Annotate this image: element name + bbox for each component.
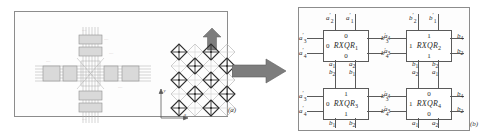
- gate2-top-value: 1: [407, 32, 451, 40]
- gate3-top-port-2: b1: [349, 68, 355, 77]
- gate4-bottom-port-2: a2: [432, 119, 438, 128]
- gate3-bottom-value: 1: [324, 110, 368, 118]
- svg-text:····: ····: [104, 38, 108, 42]
- gate-block-rxqr2[interactable]: 1 1 RXQR2 1: [406, 30, 452, 62]
- gate4-left-port-1: b′3: [381, 90, 388, 102]
- svg-text:····: ····: [46, 60, 50, 64]
- axis-x-label: x: [183, 112, 187, 117]
- figure-root: ···· ···· ···· ···· ···· ····: [0, 0, 485, 136]
- gate4-right-port-2: b2: [457, 105, 463, 114]
- crossbar-svg: ···· ···· ···· ···· ···· ····: [33, 25, 153, 125]
- panel-b: 0 0 RXQR1 0 a′2 a′1 a′3 a′4 a4 a3 a1 a2 …: [298, 7, 470, 131]
- gate2-left-wire-1: [390, 38, 406, 39]
- lattice-svg: y x: [157, 26, 239, 126]
- gate4-left-wire-2: [390, 111, 406, 112]
- gate4-bottom-port-1: a1: [412, 119, 418, 128]
- gate3-left-port-2: a′4: [299, 105, 306, 117]
- gate3-left-port-1: a′3: [299, 90, 306, 102]
- gate4-bottom-value: 0: [407, 110, 451, 118]
- gate2-left-port-1: b′3: [381, 32, 388, 44]
- gate1-label: RXQR1: [324, 41, 368, 52]
- gate4-right-port-1: b4: [457, 90, 463, 99]
- gate4-left-port-2: b′4: [381, 105, 388, 117]
- gate2-top-port-1: b′2: [409, 12, 416, 24]
- up-arrow: [203, 28, 221, 50]
- gate1-left-wire-2: [307, 53, 323, 54]
- gate4-top-port-1: a2: [412, 68, 418, 77]
- gate2-bottom-value: 1: [407, 52, 451, 60]
- gate1-top-wire-1: [335, 14, 336, 30]
- crossbar-schematic: ···· ···· ···· ···· ···· ····: [33, 25, 153, 125]
- gate1-left-port-2: a′4: [299, 47, 306, 59]
- gate1-left-port-1: a′3: [299, 32, 306, 44]
- panel-b-caption: (b): [470, 120, 478, 128]
- panel-a-caption: (a): [228, 106, 236, 114]
- svg-text:····: ····: [82, 29, 86, 33]
- gate3-label: RXQR3: [324, 99, 368, 110]
- gate2-left-wire-2: [390, 53, 406, 54]
- gate4-top-port-2: a1: [432, 68, 438, 77]
- gate1-top-wire-2: [355, 14, 356, 30]
- gate3-bottom-port-2: b2: [349, 119, 355, 128]
- gate3-top-port-1: b2: [329, 68, 335, 77]
- gate1-bottom-value: 0: [324, 52, 368, 60]
- axis-y-label: y: [163, 88, 167, 93]
- svg-text:····: ····: [118, 86, 122, 90]
- gate2-top-wire-2: [438, 14, 439, 30]
- gate-block-rxqr3[interactable]: 1 0 RXQR3 1: [323, 88, 369, 120]
- gate1-left-wire-1: [307, 38, 323, 39]
- svg-text:····: ····: [109, 52, 113, 56]
- gate2-left-port-2: b′4: [381, 47, 388, 59]
- gate-block-rxqr4[interactable]: 0 1 RXQR4 0: [406, 88, 452, 120]
- gate3-bottom-port-1: b1: [329, 119, 335, 128]
- gate2-right-port-2: b2: [457, 47, 463, 56]
- gate2-label: RXQR2: [407, 41, 451, 52]
- gate4-top-value: 0: [407, 90, 451, 98]
- gate3-left-wire-1: [307, 96, 323, 97]
- gate1-top-port-1: a′2: [326, 12, 333, 24]
- lattice-schematic: y x: [157, 26, 239, 126]
- gate2-top-wire-1: [418, 14, 419, 30]
- gate4-left-wire-1: [390, 96, 406, 97]
- gate2-right-port-1: b4: [457, 32, 463, 41]
- gate3-left-wire-2: [307, 111, 323, 112]
- right-arrow: [232, 58, 290, 84]
- gate-block-rxqr1[interactable]: 0 0 RXQR1 0: [323, 30, 369, 62]
- gate1-top-value: 0: [324, 32, 368, 40]
- gate1-top-port-2: a′1: [346, 12, 353, 24]
- gate2-top-port-2: b′1: [429, 12, 436, 24]
- panel-a: ···· ···· ···· ···· ···· ····: [14, 11, 228, 117]
- svg-text:····: ····: [82, 118, 86, 122]
- gate4-label: RXQR4: [407, 99, 451, 110]
- gate3-top-value: 1: [324, 90, 368, 98]
